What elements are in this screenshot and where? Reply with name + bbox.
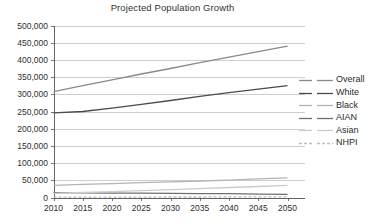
y-axis-tick-labels: 050,000100,000150,000200,000250,000300,0… [17,21,48,203]
y-axis-tick-label: 100,000 [17,158,48,168]
axes [51,26,306,202]
series-line-black [54,178,288,186]
series-line-asian [54,185,288,193]
gridlines [54,27,306,199]
line-chart-plot: 050,000100,000150,000200,000250,000300,0… [0,0,377,224]
y-axis-tick-label: 200,000 [17,124,48,134]
x-axis-tick-label: 2035 [190,203,209,213]
series-line-overall [54,46,288,91]
legend-label-overall: Overall [336,74,365,84]
chart-container: Projected Population Growth 050,000100,0… [0,0,377,224]
series-line-white [54,86,288,113]
y-axis-tick-label: 50,000 [22,175,48,185]
chart-legend: OverallWhiteBlackAIANAsianNHPI [299,74,365,147]
x-axis-tick-label: 2020 [103,203,122,213]
x-axis-tick-label: 2045 [249,203,268,213]
x-axis-tick-label: 2040 [220,203,239,213]
y-axis-tick-label: 500,000 [17,21,48,31]
y-axis-tick-label: 150,000 [17,141,48,151]
x-axis-tick-label: 2015 [73,203,92,213]
x-axis-tick-label: 2010 [44,203,63,213]
x-axis-tick-label: 2030 [161,203,180,213]
x-axis-tick-label: 2025 [132,203,151,213]
legend-label-asian: Asian [336,125,359,135]
y-axis-tick-label: 250,000 [17,107,48,117]
y-axis-tick-label: 300,000 [17,89,48,99]
x-axis-tick-label: 2050 [278,203,297,213]
x-axis-tick-labels: 201020152020202520302035204020452050 [44,203,297,213]
legend-label-aian: AIAN [336,112,357,122]
legend-label-white: White [336,87,359,97]
y-axis-tick-label: 350,000 [17,72,48,82]
y-axis-tick-label: 450,000 [17,38,48,48]
y-axis-tick-label: 0 [43,193,48,203]
legend-label-black: Black [336,100,359,110]
legend-label-nhpi: NHPI [336,137,358,147]
data-series [54,46,288,197]
y-axis-tick-label: 400,000 [17,55,48,65]
